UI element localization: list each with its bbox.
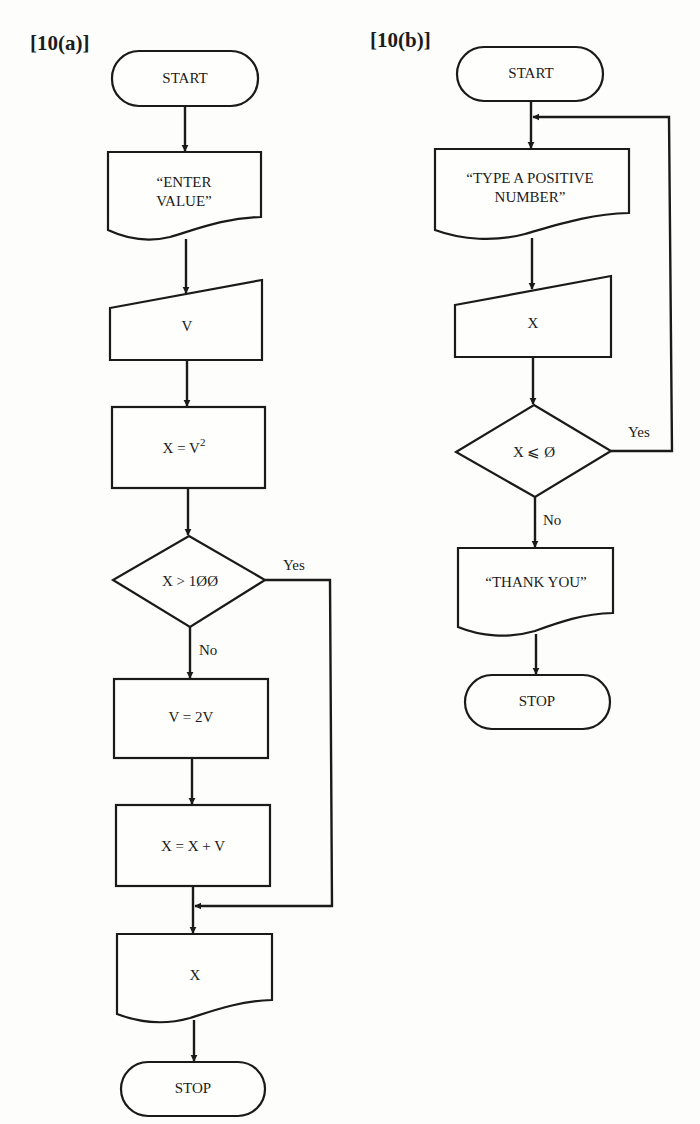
stop-label: STOP [175, 1080, 211, 1096]
double-label: V = 2V [169, 709, 214, 725]
decision-diamond-10a: X > 1ØØ [113, 536, 265, 627]
add-process-10a: X = X + V [116, 805, 270, 886]
flowchart-10b: [10(b)] START “TYPE A POSITIVE NUMBER” X… [370, 28, 672, 729]
prompt-line-1: “TYPE A POSITIVE [466, 170, 594, 186]
start-terminal-10a: START [112, 51, 258, 106]
input-label: X [528, 315, 539, 331]
yes-branch-label: Yes [628, 424, 650, 440]
thanks-label: “THANK YOU” [485, 574, 587, 590]
yes-branch-label: Yes [283, 557, 305, 573]
input-label: V [182, 318, 193, 334]
start-label: START [162, 70, 207, 86]
double-process-10a: V = 2V [114, 679, 268, 758]
output-label: X [190, 967, 201, 983]
flowchart-10a: [10(a)] START “ENTER VALUE” V X = V2 [30, 31, 332, 1116]
square-process-10a: X = V2 [112, 407, 265, 488]
decision-label: X > 1ØØ [162, 573, 218, 589]
flowchart-canvas: [10(a)] START “ENTER VALUE” V X = V2 [0, 0, 700, 1124]
prompt-line-2: VALUE” [156, 193, 212, 209]
stop-terminal-10a: STOP [121, 1062, 265, 1116]
decision-diamond-10b: X ⩽ Ø [456, 405, 611, 497]
figure-label-10a: [10(a)] [30, 31, 89, 55]
stop-label: STOP [519, 693, 555, 709]
decision-label: X ⩽ Ø [513, 444, 555, 460]
prompt-document-10a: “ENTER VALUE” [108, 152, 261, 240]
output-document-10a: X [117, 934, 272, 1022]
add-label: X = X + V [161, 838, 225, 854]
start-label: START [508, 65, 553, 81]
figure-label-10b: [10(b)] [370, 28, 431, 52]
thanks-document-10b: “THANK YOU” [458, 548, 613, 636]
start-terminal-10b: START [457, 47, 603, 101]
no-branch-label: No [199, 642, 217, 658]
prompt-document-10b: “TYPE A POSITIVE NUMBER” [435, 149, 629, 239]
no-branch-label: No [543, 512, 561, 528]
prompt-line-2: NUMBER” [495, 189, 566, 205]
prompt-line-1: “ENTER [157, 174, 212, 190]
stop-terminal-10b: STOP [465, 675, 610, 729]
